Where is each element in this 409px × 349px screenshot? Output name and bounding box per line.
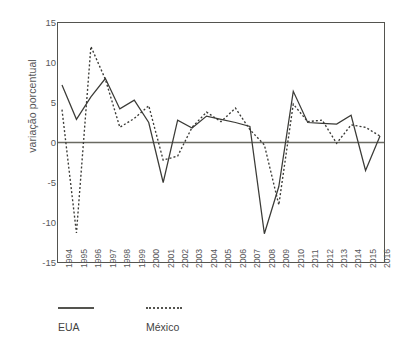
legend-entry-mexico[interactable]: México: [146, 303, 182, 333]
x-tick-label: 2003: [195, 248, 204, 267]
x-tick-label: 2009: [282, 248, 291, 267]
x-tick-label: 2000: [152, 248, 161, 267]
legend-label-mexico: México: [146, 321, 182, 333]
x-tick-label: 2004: [210, 248, 219, 267]
legend-swatch-solid-icon: [58, 303, 94, 313]
series-line-eua: [62, 79, 380, 234]
legend-swatch-dotted-icon: [146, 303, 182, 313]
legend-label-eua: EUA: [58, 321, 94, 333]
chart-container: variação porcentual 151050-5-10-15 19941…: [0, 0, 409, 349]
x-tick-label: 1995: [80, 248, 89, 267]
x-tick-label: 2001: [167, 248, 176, 267]
x-tick-label: 2014: [354, 248, 363, 267]
x-tick-label: 2005: [224, 248, 233, 267]
x-tick-label: 2016: [383, 248, 392, 267]
chart-legend: EUA México: [58, 303, 298, 343]
x-tick-label: 1996: [94, 248, 103, 267]
x-tick-label: 2007: [253, 248, 262, 267]
x-tick-label: 2010: [297, 248, 306, 267]
x-tick-label: 1998: [123, 248, 132, 267]
x-tick-label: 1999: [138, 248, 147, 267]
x-tick-label: 1997: [109, 248, 118, 267]
x-tick-label: 1994: [65, 248, 74, 267]
x-tick-label: 2012: [326, 248, 335, 267]
x-tick-label: 2002: [181, 248, 190, 267]
x-tick-label: 2008: [268, 248, 277, 267]
plot-area: [0, 0, 409, 349]
x-tick-label: 2015: [369, 248, 378, 267]
legend-entry-eua[interactable]: EUA: [58, 303, 94, 333]
x-tick-label: 2011: [311, 249, 320, 267]
x-tick-label: 2013: [340, 248, 349, 267]
x-tick-label: 2006: [239, 248, 248, 267]
series-line-mexico: [62, 47, 380, 233]
